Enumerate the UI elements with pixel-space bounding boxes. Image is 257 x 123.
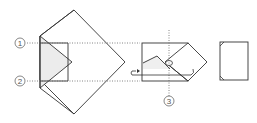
folding-diagram: 1 2 3 [0,0,257,123]
step-1-figure: 1 2 [15,10,140,114]
step-3-figure [220,42,248,80]
final-rectangle [220,42,248,80]
step-label-2: 2 [18,77,23,86]
step-2-figure: 3 [131,30,207,106]
step-label-3: 3 [167,97,172,106]
arrow-head-icon [137,69,140,73]
step-label-1: 1 [18,39,23,48]
